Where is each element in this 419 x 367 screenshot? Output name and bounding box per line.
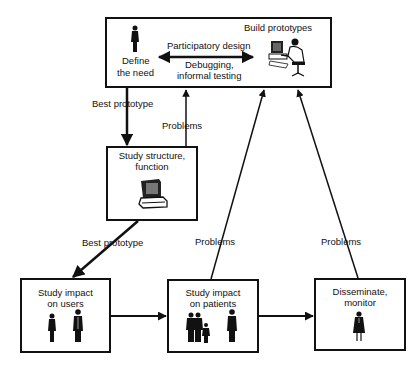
- computer-user-icon: [268, 38, 310, 80]
- best-prototype-label-2: Best prototype: [82, 237, 143, 248]
- disseminate-title: Disseminate, monitor: [314, 286, 406, 308]
- disseminate-title-line-2: monitor: [314, 297, 406, 308]
- patients-title-line-1: Study impact: [167, 287, 259, 298]
- problems-label-1: Problems: [162, 120, 202, 131]
- person-icon: [226, 309, 238, 343]
- computer-icon: [137, 178, 169, 210]
- patients-title: Study impact on patients: [167, 287, 259, 309]
- person-icon: [47, 313, 57, 343]
- patients-title-line-2: on patients: [167, 298, 259, 309]
- disseminate-title-line-1: Disseminate,: [314, 286, 406, 297]
- structure-title-line-2: function: [106, 161, 198, 172]
- users-title-line-1: Study impact: [20, 287, 111, 298]
- person-icon: [72, 309, 84, 343]
- define-need-label-1: Define: [122, 55, 149, 66]
- build-prototypes-label: Build prototypes: [244, 22, 312, 33]
- debugging-label-2: informal testing: [177, 70, 241, 81]
- structure-title-line-1: Study structure,: [106, 150, 198, 161]
- define-need-label-2: the need: [117, 67, 154, 78]
- participatory-design-label: Participatory design: [167, 40, 250, 51]
- structure-title: Study structure, function: [106, 150, 198, 172]
- users-title: Study impact on users: [20, 287, 111, 309]
- problems-arrow-3: [298, 90, 358, 278]
- problems-label-2: Problems: [195, 236, 235, 247]
- users-title-line-2: on users: [20, 298, 111, 309]
- woman-icon: [353, 311, 365, 343]
- problems-label-3: Problems: [321, 236, 361, 247]
- person-icon: [130, 25, 140, 53]
- debugging-label-1: Debugging,: [185, 59, 234, 70]
- best-prototype-label-1: Best prototype: [92, 98, 153, 109]
- family-icon: [186, 312, 212, 344]
- best-prototype-arrow-2: [73, 221, 138, 277]
- problems-arrow-2: [211, 90, 264, 279]
